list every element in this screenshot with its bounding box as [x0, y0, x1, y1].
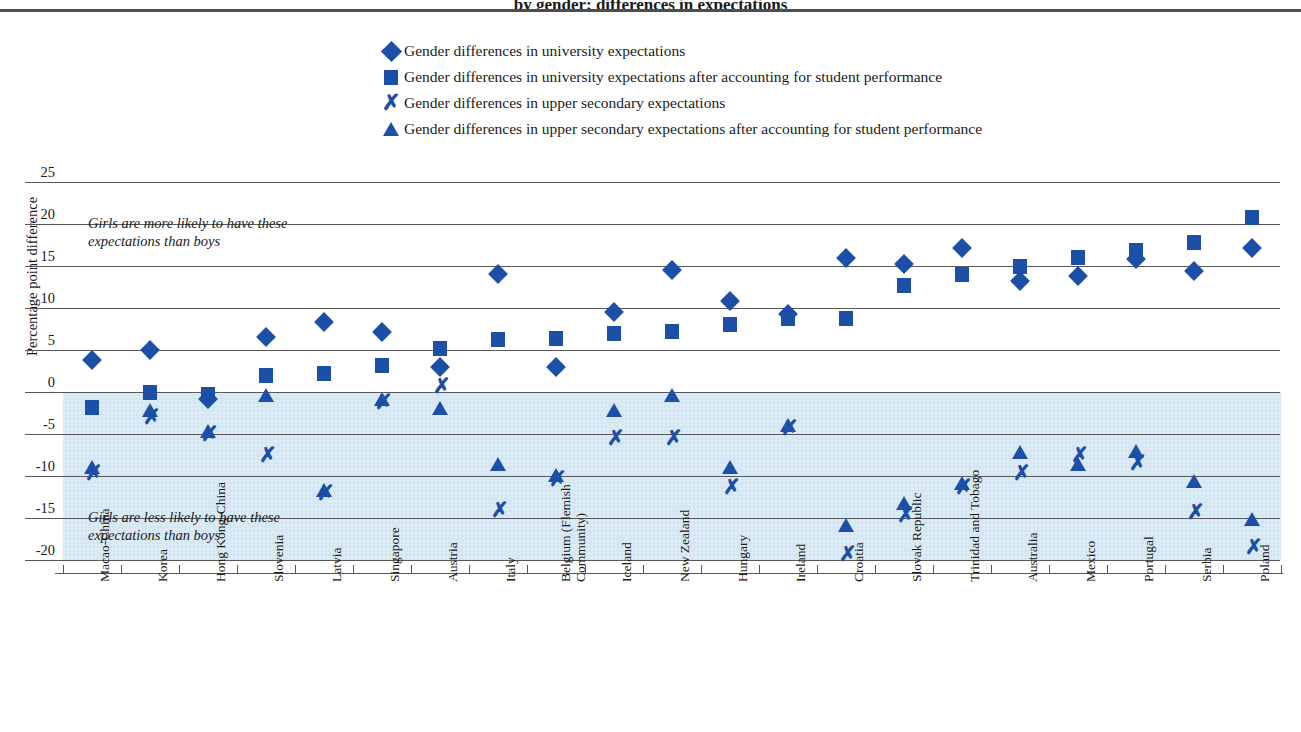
x-axis-label: Italy [503, 557, 519, 582]
data-point-square [1187, 235, 1201, 250]
gridline [25, 350, 1280, 351]
x-axis-label: Ireland [793, 544, 809, 582]
data-point-diamond [836, 248, 856, 268]
data-point-diamond [488, 264, 508, 284]
annotation-girls-less-likely: Girls are less likely to have these expe… [88, 508, 280, 544]
x-axis-label: Belgium (Flemish Community) [558, 484, 588, 582]
x-tick [701, 565, 702, 574]
x-tick [817, 565, 818, 574]
data-point-diamond [952, 238, 972, 258]
data-point-square [201, 387, 215, 402]
data-point-triangle [490, 457, 506, 471]
data-point-square [375, 358, 389, 373]
y-tick-label: -5 [25, 416, 55, 433]
gridline [25, 266, 1280, 267]
data-point-triangle [780, 418, 796, 432]
data-point-diamond [662, 260, 682, 280]
chart-plot-area: Percentage point difference 2520151050-5… [0, 0, 1301, 732]
data-point-diamond [1242, 238, 1262, 258]
data-point-square [549, 331, 563, 346]
x-tick [643, 565, 644, 574]
x-axis-label: Hong Kong-China [213, 482, 229, 582]
x-tick [1107, 565, 1108, 574]
data-point-triangle [838, 518, 854, 532]
x-axis-label: New Zealand [677, 510, 693, 582]
data-point-diamond [1068, 266, 1088, 286]
x-tick [875, 565, 876, 574]
data-point-diamond [140, 340, 160, 360]
data-point-triangle [896, 496, 912, 510]
y-tick-label: 10 [25, 290, 55, 307]
x-tick [469, 565, 470, 574]
data-point-triangle [374, 392, 390, 406]
data-point-triangle [548, 468, 564, 482]
x-axis-label: Iceland [619, 542, 635, 582]
x-tick [991, 565, 992, 574]
data-point-diamond [546, 357, 566, 377]
data-point-square [897, 278, 911, 293]
x-tick [179, 565, 180, 574]
data-point-diamond [1010, 271, 1030, 291]
data-point-triangle [1186, 474, 1202, 488]
data-point-square [1071, 250, 1085, 265]
data-point-triangle [432, 401, 448, 415]
data-point-square [955, 267, 969, 282]
data-point-triangle [664, 388, 680, 402]
gridline [25, 182, 1280, 183]
x-tick [1281, 565, 1282, 574]
x-axis-label: Korea [155, 549, 171, 582]
annotation-girls-more-likely: Girls are more likely to have these expe… [88, 214, 287, 250]
data-point-square [85, 400, 99, 415]
y-tick-label: -20 [25, 542, 55, 559]
data-point-square [491, 332, 505, 347]
x-axis-label: Slovenia [271, 535, 287, 582]
x-tick [1223, 565, 1224, 574]
data-point-diamond [604, 302, 624, 322]
data-point-triangle [142, 403, 158, 417]
x-tick [1165, 565, 1166, 574]
data-point-square [1245, 210, 1259, 225]
y-tick-label: 15 [25, 248, 55, 265]
data-point-triangle [258, 388, 274, 402]
data-point-diamond [314, 312, 334, 332]
x-axis-label: Serbia [1199, 548, 1215, 583]
y-tick-label: 0 [25, 374, 55, 391]
x-axis-label: Austria [445, 542, 461, 582]
data-point-square [723, 317, 737, 332]
x-axis-label: Portugal [1141, 536, 1157, 582]
y-tick-label: 25 [25, 164, 55, 181]
data-point-triangle [200, 424, 216, 438]
data-point-square [839, 311, 853, 326]
data-point-square [259, 368, 273, 383]
data-point-triangle [316, 483, 332, 497]
data-point-square [607, 326, 621, 341]
data-point-diamond [1184, 261, 1204, 281]
y-tick-label: 5 [25, 332, 55, 349]
data-point-triangle [1128, 444, 1144, 458]
x-axis-label: Latvia [329, 548, 345, 582]
x-tick [411, 565, 412, 574]
x-tick [933, 565, 934, 574]
data-point-diamond [372, 322, 392, 342]
y-tick-label: -15 [25, 500, 55, 517]
data-point-triangle [1244, 512, 1260, 526]
x-tick [759, 565, 760, 574]
gridline [25, 476, 1280, 477]
data-point-square [143, 385, 157, 400]
x-axis-label: Macao-China [97, 509, 113, 582]
data-point-square [433, 341, 447, 356]
x-tick [353, 565, 354, 574]
data-point-triangle [722, 460, 738, 474]
x-tick [295, 565, 296, 574]
y-tick-label: 20 [25, 206, 55, 223]
data-point-triangle [84, 460, 100, 474]
x-axis-label: Hungary [735, 535, 751, 582]
data-point-square [1013, 259, 1027, 274]
gridline [25, 308, 1280, 309]
x-tick [121, 565, 122, 574]
data-point-square [317, 366, 331, 381]
x-axis-label: Singapore [387, 527, 403, 582]
data-point-diamond [82, 350, 102, 370]
x-tick [63, 565, 64, 574]
data-point-diamond [256, 327, 276, 347]
